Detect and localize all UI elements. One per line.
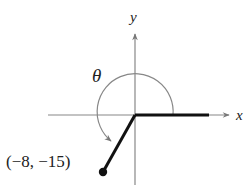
theta-label: θ (92, 65, 101, 86)
angle-diagram: y x θ (−8, −15) (0, 0, 249, 185)
point-label: (−8, −15) (6, 152, 71, 171)
x-axis-label: x (235, 107, 243, 123)
y-axis-label: y (128, 9, 137, 25)
terminal-point (99, 168, 107, 176)
terminal-side-ray (103, 115, 135, 172)
